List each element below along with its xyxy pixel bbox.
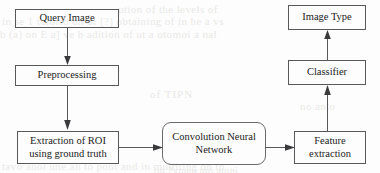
node-preprocessing-label: Preprocessing [38,69,97,82]
arrow-cnn-to-feature-extraction [265,142,296,154]
node-cnn-line2: Network [172,144,256,157]
node-feature-extraction-label: Feature extraction [309,135,351,160]
diagram-canvas: ution of the levels of in se 1 tutorio o… [0,0,380,173]
node-query-image-label: Query Image [39,12,94,25]
scan-artifact-text: on 2vmen mo atoni [154,165,238,173]
node-query-image: Query Image [15,9,119,28]
node-classifier: Classifier [288,60,366,85]
node-feature-extraction-line2: extraction [309,148,351,161]
node-convolution-neural-network-label: Convolution Neural Network [172,131,256,156]
node-feature-extraction: Feature extraction [294,131,366,164]
arrow-feature-extraction-to-classifier [322,84,334,132]
scan-artifact-text: ution of the levels of [118,3,218,15]
arrow-preprocessing-to-roi [62,85,74,131]
node-preprocessing: Preprocessing [15,65,119,86]
node-extraction-of-roi-line1: Extraction of ROI [29,135,107,148]
scan-artifact-text: b (a) on E a] ve b adition of ut a utomo… [0,28,217,40]
node-extraction-of-roi-label: Extraction of ROI using ground truth [29,135,107,160]
arrow-classifier-to-image-type [322,29,334,61]
node-classifier-label: Classifier [307,66,347,79]
node-extraction-of-roi: Extraction of ROI using ground truth [17,131,119,164]
node-image-type: Image Type [288,5,366,30]
node-extraction-of-roi-line2: using ground truth [29,148,107,161]
scan-artifact-text: of TIPN [150,88,193,100]
arrow-roi-to-cnn [118,142,164,154]
node-feature-extraction-line1: Feature [309,135,351,148]
node-image-type-label: Image Type [302,11,352,24]
node-cnn-line1: Convolution Neural [172,131,256,144]
node-convolution-neural-network: Convolution Neural Network [162,122,266,165]
arrow-query-image-to-preprocessing [62,27,74,67]
